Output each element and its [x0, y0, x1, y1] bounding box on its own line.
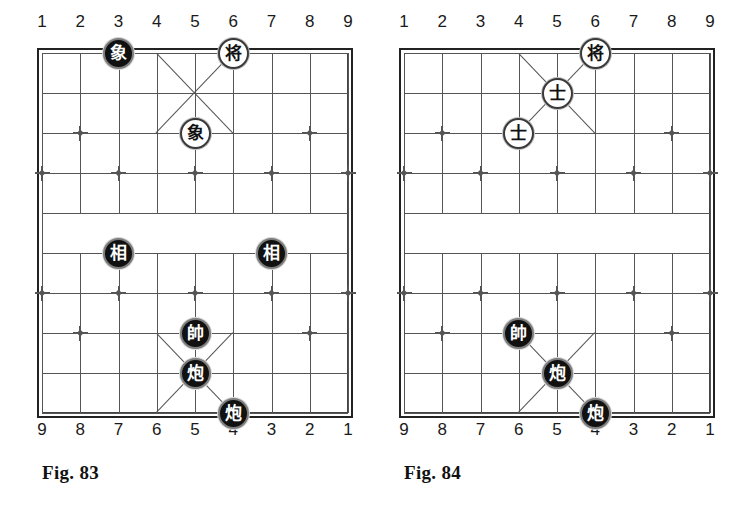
star-point-core [345, 290, 352, 297]
star-point-marker [473, 286, 488, 301]
file-label-bottom-7: 7 [461, 420, 499, 440]
piece-black-advisor[interactable]: 士 [542, 78, 573, 109]
file-label-top-5: 5 [538, 12, 576, 32]
file-label-bottom-9: 9 [23, 420, 61, 440]
star-point-marker [550, 166, 565, 181]
star-point-marker [341, 166, 356, 181]
file-label-top-1: 1 [23, 12, 61, 32]
grid-line-vertical [634, 53, 635, 213]
star-point-core [554, 290, 561, 297]
piece-glyph: 将 [587, 45, 604, 62]
star-point-marker [35, 166, 50, 181]
piece-red-general[interactable]: 帥 [503, 318, 534, 349]
star-point-marker [264, 166, 279, 181]
piece-black-general[interactable]: 将 [580, 38, 611, 69]
grid-line-vertical [119, 53, 120, 213]
piece-glyph: 象 [187, 125, 204, 142]
piece-glyph: 炮 [549, 365, 566, 382]
star-point-core [439, 130, 446, 137]
figure-caption: Fig. 83 [42, 462, 99, 484]
star-point-marker [664, 326, 679, 341]
grid-line-vertical [634, 253, 635, 413]
star-point-marker [302, 126, 317, 141]
file-label-bottom-6: 6 [138, 420, 176, 440]
star-point-core [477, 170, 484, 177]
file-label-bottom-1: 1 [329, 420, 367, 440]
file-label-top-4: 4 [500, 12, 538, 32]
file-label-bottom-2: 2 [653, 420, 691, 440]
star-point-core [630, 290, 637, 297]
grid-line-vertical [481, 253, 482, 413]
piece-glyph: 炮 [587, 405, 604, 422]
star-point-marker [626, 166, 641, 181]
star-point-marker [435, 126, 450, 141]
star-point-core [306, 330, 313, 337]
star-point-marker [435, 326, 450, 341]
piece-red-minister[interactable]: 相 [103, 238, 134, 269]
star-point-core [268, 290, 275, 297]
star-point-core [77, 330, 84, 337]
grid-line-vertical [595, 253, 596, 413]
star-point-core [439, 330, 446, 337]
file-label-top-6: 6 [576, 12, 614, 32]
piece-red-cannon[interactable]: 炮 [218, 398, 249, 429]
file-label-top-7: 7 [614, 12, 652, 32]
star-point-core [554, 170, 561, 177]
star-point-marker [550, 286, 565, 301]
grid-line-vertical [348, 53, 349, 413]
file-label-top-7: 7 [252, 12, 290, 32]
piece-red-cannon[interactable]: 炮 [180, 358, 211, 389]
piece-glyph: 象 [110, 45, 127, 62]
piece-red-cannon[interactable]: 炮 [580, 398, 611, 429]
star-point-core [77, 130, 84, 137]
star-point-marker [73, 126, 88, 141]
piece-red-general[interactable]: 帥 [180, 318, 211, 349]
piece-red-cannon[interactable]: 炮 [542, 358, 573, 389]
figure-caption: Fig. 84 [404, 462, 461, 484]
file-label-top-8: 8 [653, 12, 691, 32]
file-label-top-1: 1 [385, 12, 423, 32]
star-point-core [268, 170, 275, 177]
piece-glyph: 士 [549, 85, 566, 102]
star-point-marker [473, 166, 488, 181]
piece-glyph: 相 [110, 245, 127, 262]
piece-glyph: 帥 [510, 325, 527, 342]
grid-line-vertical [119, 253, 120, 413]
star-point-marker [188, 166, 203, 181]
piece-red-minister[interactable]: 相 [256, 238, 287, 269]
file-label-bottom-6: 6 [500, 420, 538, 440]
piece-black-general[interactable]: 将 [218, 38, 249, 69]
star-point-marker [397, 166, 412, 181]
star-point-core [345, 170, 352, 177]
star-point-core [668, 130, 675, 137]
file-label-bottom-8: 8 [61, 420, 99, 440]
file-label-bottom-1: 1 [691, 420, 729, 440]
file-label-top-4: 4 [138, 12, 176, 32]
file-label-bottom-5: 5 [538, 420, 576, 440]
file-label-bottom-5: 5 [176, 420, 214, 440]
grid-line-horizontal [404, 413, 710, 414]
grid-line-vertical [233, 253, 234, 413]
star-point-marker [302, 326, 317, 341]
file-label-top-3: 3 [99, 12, 137, 32]
grid-line-vertical [272, 53, 273, 213]
top-file-labels: 123456789 [42, 12, 388, 32]
star-point-core [477, 290, 484, 297]
top-file-labels: 123456789 [404, 12, 750, 32]
star-point-core [192, 290, 199, 297]
star-point-marker [73, 326, 88, 341]
file-label-bottom-8: 8 [423, 420, 461, 440]
star-point-core [401, 290, 408, 297]
piece-black-elephant[interactable]: 象 [103, 38, 134, 69]
file-label-top-9: 9 [329, 12, 367, 32]
piece-black-advisor[interactable]: 士 [503, 118, 534, 149]
xiangqi-board: 将士士帥炮炮 [404, 53, 710, 413]
star-point-marker [664, 126, 679, 141]
star-point-marker [264, 286, 279, 301]
star-point-core [668, 330, 675, 337]
file-label-bottom-9: 9 [385, 420, 423, 440]
file-label-top-2: 2 [423, 12, 461, 32]
file-label-bottom-7: 7 [99, 420, 137, 440]
piece-black-elephant[interactable]: 象 [180, 118, 211, 149]
star-point-core [630, 170, 637, 177]
